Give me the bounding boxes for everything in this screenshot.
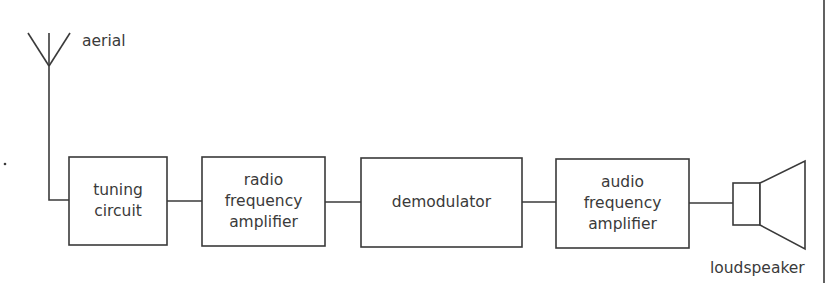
block-label-rf-amp: radio frequency amplifier xyxy=(202,157,325,246)
stray-dot xyxy=(4,163,7,166)
loudspeaker-icon xyxy=(733,161,805,249)
block-label-af-amp: audio frequency amplifier xyxy=(556,159,689,248)
wire-aerial-tuning xyxy=(49,194,69,200)
block-text: amplifier xyxy=(588,214,657,235)
block-label-tuning: tuning circuit xyxy=(69,157,167,245)
block-text: frequency xyxy=(584,193,662,214)
block-text: frequency xyxy=(225,191,303,212)
block-text: radio xyxy=(244,170,284,191)
block-text: demodulator xyxy=(392,192,491,213)
aerial-label: aerial xyxy=(82,32,126,50)
block-text: tuning xyxy=(93,180,143,201)
block-text: amplifier xyxy=(229,212,298,233)
block-text: circuit xyxy=(94,201,142,222)
block-label-demod: demodulator xyxy=(361,158,522,247)
loudspeaker-label: loudspeaker xyxy=(710,259,805,277)
aerial-icon xyxy=(28,33,70,194)
block-text: audio xyxy=(601,172,644,193)
